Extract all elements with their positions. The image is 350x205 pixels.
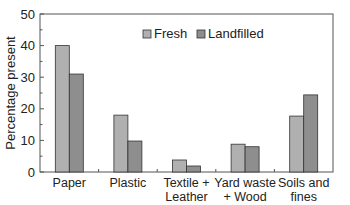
bar-landfilled-4 bbox=[304, 95, 318, 172]
bar-fresh-0 bbox=[55, 46, 69, 172]
y-tick-label: 30 bbox=[21, 70, 35, 85]
x-category-label: Yard waste bbox=[214, 176, 276, 190]
x-category-label: Leather bbox=[165, 190, 207, 204]
x-category-label: Plastic bbox=[109, 176, 146, 190]
bar-fresh-3 bbox=[231, 144, 245, 172]
legend: FreshLandfilled bbox=[143, 26, 264, 41]
bar-fresh-4 bbox=[290, 116, 304, 172]
y-tick-label: 20 bbox=[21, 101, 35, 116]
x-category-label: fines bbox=[290, 190, 316, 204]
y-tick-label: 10 bbox=[21, 133, 35, 148]
bar-landfilled-0 bbox=[69, 74, 83, 172]
legend-swatch-landfilled bbox=[197, 30, 205, 38]
y-tick-label: 40 bbox=[21, 38, 35, 53]
bar-landfilled-3 bbox=[245, 147, 259, 172]
legend-swatch-fresh bbox=[143, 30, 151, 38]
x-category-label: Paper bbox=[53, 176, 86, 190]
legend-label-fresh: Fresh bbox=[154, 26, 187, 41]
x-category-label: Textile + bbox=[163, 176, 209, 190]
bar-landfilled-2 bbox=[187, 166, 201, 172]
bar-fresh-2 bbox=[173, 160, 187, 172]
bar-chart: 01020304050Percentage presentPaperPlasti… bbox=[0, 0, 350, 204]
y-axis-title: Percentage present bbox=[3, 36, 18, 150]
y-tick-label: 0 bbox=[28, 165, 35, 180]
y-tick-label: 50 bbox=[21, 7, 35, 22]
x-category-label: Soils and bbox=[278, 176, 329, 190]
plot-area: 01020304050Percentage presentPaperPlasti… bbox=[3, 7, 333, 205]
legend-label-landfilled: Landfilled bbox=[208, 26, 264, 41]
x-category-label: + Wood bbox=[223, 190, 266, 204]
bar-fresh-1 bbox=[114, 115, 128, 172]
bar-landfilled-1 bbox=[128, 141, 142, 172]
